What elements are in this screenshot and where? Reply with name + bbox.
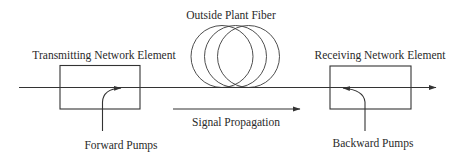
signal-propagation-label: Signal Propagation — [192, 116, 280, 129]
raman-amplification-diagram: Outside Plant Fiber Transmitting Network… — [0, 0, 460, 156]
transmitting-element-label: Transmitting Network Element — [32, 49, 176, 62]
backward-pumps-label: Backward Pumps — [333, 137, 414, 150]
fiber-coil-icon — [191, 26, 280, 88]
forward-pumps-label: Forward Pumps — [84, 139, 158, 152]
receiving-element-label: Receiving Network Element — [315, 49, 447, 62]
fiber-label: Outside Plant Fiber — [186, 9, 276, 21]
